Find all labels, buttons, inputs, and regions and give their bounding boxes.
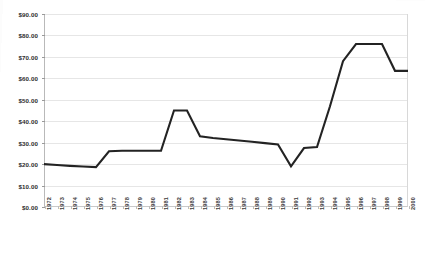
x-axis-tick-label: 1990 <box>280 197 286 210</box>
x-axis-tick-label: 1981 <box>163 197 169 210</box>
x-axis-tick-label: 1974 <box>72 197 78 210</box>
x-axis-tick-label: 1999 <box>397 197 403 210</box>
x-axis-tick-label: 1992 <box>306 197 312 210</box>
y-axis-tick-label: $0.00 <box>4 204 38 211</box>
y-axis-tick-label: $30.00 <box>4 139 38 146</box>
x-axis-tick-label: 1978 <box>124 197 130 210</box>
y-axis-tick-label: $40.00 <box>4 118 38 125</box>
x-axis-tick-label: 1988 <box>254 197 260 210</box>
x-axis-tick-label: 1995 <box>345 197 351 210</box>
x-axis-tick-label: 1996 <box>358 197 364 210</box>
x-axis-tick-label: 1975 <box>85 197 91 210</box>
x-axis-tick-label: 1994 <box>332 197 338 210</box>
y-axis-tick-label: $50.00 <box>4 96 38 103</box>
x-axis-tick-label: 1979 <box>137 197 143 210</box>
x-axis-tick-label: 1983 <box>189 197 195 210</box>
y-axis-tick-label: $60.00 <box>4 75 38 82</box>
data-series-line <box>44 14 408 207</box>
x-axis-tick-label: 1991 <box>293 197 299 210</box>
x-axis-tick-label: 1976 <box>98 197 104 210</box>
x-axis-tick-label: 1986 <box>228 197 234 210</box>
x-axis-tick-label: 1973 <box>59 197 65 210</box>
x-axis-tick-label: 1987 <box>241 197 247 210</box>
line-chart: $90.00$80.00$70.00$60.00$50.00$40.00$30.… <box>0 0 425 274</box>
series-polyline <box>44 44 408 167</box>
y-axis-tick-label: $80.00 <box>4 32 38 39</box>
x-axis-tick-label: 1977 <box>111 197 117 210</box>
x-axis-tick-label: 1993 <box>319 197 325 210</box>
y-axis-tick-label: $70.00 <box>4 53 38 60</box>
y-axis-tick-label: $90.00 <box>4 11 38 18</box>
y-axis-tick-label: $10.00 <box>4 182 38 189</box>
x-axis-tick-label: 1985 <box>215 197 221 210</box>
x-axis-tick-label: 2000 <box>410 197 416 210</box>
x-axis-tick-label: 1998 <box>384 197 390 210</box>
x-axis-tick-label: 1989 <box>267 197 273 210</box>
x-axis-tick-label: 1982 <box>176 197 182 210</box>
x-axis-tick-label: 1997 <box>371 197 377 210</box>
x-axis-tick-label: 1984 <box>202 197 208 210</box>
y-axis-tick-label: $20.00 <box>4 161 38 168</box>
x-axis-tick-label: 1972 <box>46 197 52 210</box>
x-axis-tick-label: 1980 <box>150 197 156 210</box>
